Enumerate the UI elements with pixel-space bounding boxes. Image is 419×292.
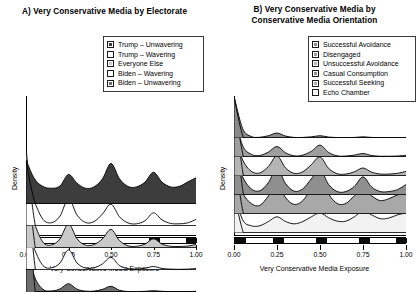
axis-tick-label: 0.75 — [356, 251, 369, 258]
legend-swatch-icon — [107, 51, 114, 58]
legend-item[interactable]: Casual Consumption — [312, 69, 411, 79]
axis-tick — [406, 245, 407, 250]
rug-tick — [273, 238, 284, 243]
panel-b-rug-strip — [234, 237, 406, 244]
panel-b-tick-labels: 0.000.250.500.751.00 — [234, 251, 406, 261]
legend-item-label: Everyone Else — [118, 59, 163, 69]
panel-a: A) Very Conservative Media by Electorate… — [0, 0, 209, 284]
legend-item-label: Biden – Wavering — [118, 69, 173, 79]
legend-item[interactable]: Unsuccessful Avoidance — [312, 59, 411, 69]
legend-swatch-icon — [107, 41, 114, 48]
panel-a-y-axis-label: Density — [11, 167, 18, 190]
zero-spike — [26, 160, 196, 204]
legend-item-label: Successful Avoidance — [323, 40, 391, 50]
legend-swatch-icon — [312, 80, 319, 87]
panel-b-plot — [234, 96, 406, 236]
axis-tick-label: 0.50 — [313, 251, 326, 258]
axis-tick — [196, 245, 197, 250]
legend-swatch-icon — [107, 80, 114, 87]
panel-b-title-line2: Conservative Media Orientation — [252, 16, 378, 25]
panel-b-x-axis — [234, 235, 406, 236]
panel-a-plot — [26, 96, 196, 236]
rug-tick — [235, 238, 246, 243]
legend-item-label: Casual Consumption — [323, 69, 388, 79]
axis-tick-label: 1.00 — [399, 251, 412, 258]
panel-b-x-axis-label: Very Conservative Media Exposure — [210, 265, 419, 272]
legend-item[interactable]: Everyone Else — [107, 59, 199, 69]
panel-a-legend: Trump – UnwaveringTrump – WaveringEveryo… — [103, 36, 204, 92]
axis-tick — [277, 245, 278, 250]
legend-item[interactable]: Trump – Wavering — [107, 50, 199, 60]
panel-b-title: B) Very Conservative Media by Conservati… — [210, 4, 419, 26]
axis-tick — [363, 245, 364, 250]
zero-spike — [234, 96, 406, 138]
legend-swatch-icon — [312, 60, 319, 67]
legend-item[interactable]: Trump – Unwavering — [107, 40, 199, 50]
legend-item-label: Unsuccessful Avoidance — [323, 59, 399, 69]
axis-tick — [320, 245, 321, 250]
axis-tick-label: 0.00 — [227, 251, 240, 258]
axis-tick — [234, 245, 235, 250]
legend-item-label: Successful Seeking — [323, 78, 384, 88]
legend-swatch-icon — [312, 41, 319, 48]
rug-tick — [359, 238, 370, 243]
legend-item-label: Biden – Unwavering — [118, 78, 181, 88]
panel-b-title-line1: B) Very Conservative Media by — [253, 5, 375, 14]
legend-item-label: Trump – Wavering — [118, 50, 175, 60]
panel-b-y-axis-label: Density — [219, 167, 226, 190]
panel-b: B) Very Conservative Media by Conservati… — [210, 0, 419, 284]
legend-item-label: Disengaged — [323, 50, 360, 60]
rug-tick — [396, 238, 407, 243]
legend-swatch-icon — [107, 70, 114, 77]
axis-tick-label: 0.25 — [270, 251, 283, 258]
panel-b-legend: Successful AvoidanceDisengagedUnsuccessf… — [308, 36, 416, 102]
panel-a-title: A) Very Conservative Media by Electorate — [0, 6, 209, 17]
legend-swatch-icon — [312, 70, 319, 77]
legend-swatch-icon — [107, 60, 114, 67]
legend-item[interactable]: Disengaged — [312, 50, 411, 60]
legend-swatch-icon — [312, 51, 319, 58]
legend-item[interactable]: Biden – Unwavering — [107, 78, 199, 88]
rug-tick — [316, 238, 327, 243]
legend-item[interactable]: Successful Seeking — [312, 78, 411, 88]
legend-item-label: Trump – Unwavering — [118, 40, 183, 50]
panel-b-tick-marks — [234, 245, 406, 250]
legend-item[interactable]: Successful Avoidance — [312, 40, 411, 50]
legend-item[interactable]: Biden – Wavering — [107, 69, 199, 79]
